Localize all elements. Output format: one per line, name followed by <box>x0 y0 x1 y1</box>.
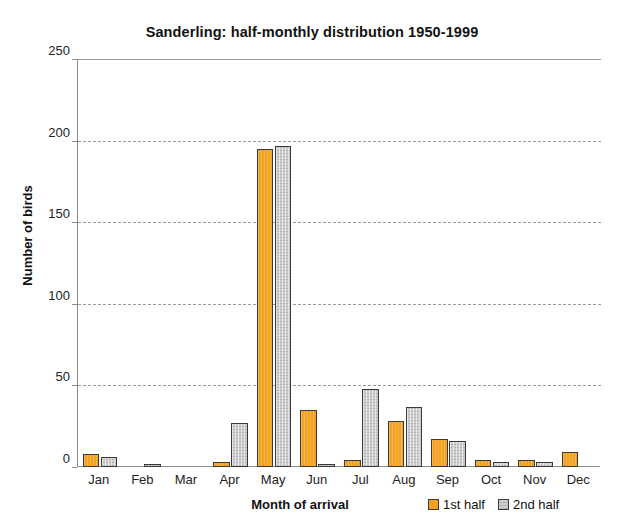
y-axis-tick-label: 150 <box>24 206 70 221</box>
bar-may-first-half <box>257 149 274 467</box>
chart-title: Sanderling: half-monthly distribution 19… <box>0 24 624 40</box>
y-axis-tick-label: 100 <box>24 288 70 303</box>
x-axis-label: Month of arrival <box>150 497 450 512</box>
bar-jan-second-half <box>101 457 118 467</box>
y-axis-tick-label: 200 <box>24 125 70 140</box>
bar-jun-first-half <box>300 410 317 467</box>
legend-item-first-half: 1st half <box>428 497 485 512</box>
bar-aug-second-half <box>406 407 423 467</box>
bar-apr-second-half <box>231 423 248 467</box>
bar-oct-first-half <box>475 460 492 467</box>
bar-feb-second-half <box>144 464 161 467</box>
bar-jul-second-half <box>362 389 379 467</box>
legend-item-second-half: 2nd half <box>498 497 559 512</box>
bar-apr-first-half <box>213 462 230 467</box>
bar-aug-first-half <box>388 421 405 467</box>
bar-sep-first-half <box>431 439 448 467</box>
bar-sep-second-half <box>449 441 466 467</box>
y-axis-tick-mark <box>72 59 77 60</box>
y-axis-tick-mark <box>72 141 77 142</box>
y-axis-tick-label: 250 <box>24 43 70 58</box>
bar-jan-first-half <box>83 454 100 467</box>
bar-may-second-half <box>275 146 292 468</box>
y-axis-tick-label: 0 <box>24 451 70 466</box>
bar-series-group <box>78 59 601 467</box>
y-axis-tick-mark <box>72 467 77 468</box>
legend-swatch-first-half-icon <box>428 499 439 510</box>
chart-legend: 1st half 2nd half <box>428 497 559 512</box>
bar-jul-first-half <box>344 460 361 467</box>
y-axis-tick-label: 50 <box>24 369 70 384</box>
bar-oct-second-half <box>493 462 510 467</box>
legend-label-second-half: 2nd half <box>513 497 559 512</box>
x-axis-tick-label: Dec <box>548 472 608 487</box>
bar-nov-first-half <box>518 460 535 467</box>
legend-swatch-second-half-icon <box>498 499 509 510</box>
y-axis-tick-mark <box>72 222 77 223</box>
bar-dec-first-half <box>562 452 579 467</box>
plot-area <box>77 59 600 467</box>
legend-label-first-half: 1st half <box>443 497 485 512</box>
y-axis-tick-mark <box>72 385 77 386</box>
y-axis-tick-mark <box>72 304 77 305</box>
bar-jun-second-half <box>318 464 335 467</box>
chart-container: Sanderling: half-monthly distribution 19… <box>0 0 624 532</box>
bar-nov-second-half <box>536 462 553 467</box>
